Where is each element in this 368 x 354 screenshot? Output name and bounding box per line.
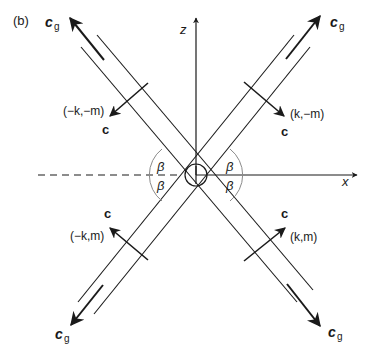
wavevector-upper-right: (k,−m) [290,107,324,121]
svg-text:c: c [45,14,53,30]
c-label-upper-right: c [281,124,288,139]
svg-text:c: c [330,14,338,30]
c-label-lower-left: c [104,206,111,221]
svg-text:g: g [54,21,60,32]
svg-text:c: c [328,324,336,340]
group-velocity-arrows [70,16,320,326]
svg-text:g: g [64,333,70,344]
panel-label: (b) [13,13,29,28]
wave-beam-diagram: (b) z x β β β β c g c g c g c g c c c c … [0,0,368,354]
c-label-upper-left: c [102,122,109,137]
angle-beta-label: β [225,178,234,193]
x-axis-label: x [341,174,349,189]
wavevector-lower-left: (−k,m) [70,229,104,243]
angle-beta-label: β [225,159,234,174]
angle-beta-label: β [156,159,165,174]
angle-beta-label: β [156,178,165,193]
svg-text:g: g [339,21,345,32]
c-label-lower-right: c [281,206,288,221]
cg-label-top-right: c g [330,14,345,32]
phase-velocity-arrows [110,82,285,261]
wavevector-lower-right: (k,m) [290,230,317,244]
cg-label-bottom-right: c g [328,324,343,342]
svg-text:c: c [55,326,63,342]
beam-nw-se [81,35,313,302]
z-axis-label: z [179,22,187,37]
svg-text:g: g [337,331,343,342]
wavevector-upper-left: (−k,−m) [63,104,104,118]
cg-label-bottom-left: c g [55,326,70,344]
cg-label-top-left: c g [45,14,60,32]
